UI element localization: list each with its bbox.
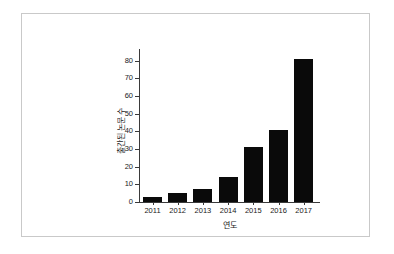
figure-root: 01020304050607080 2011201220132014201520… bbox=[0, 0, 394, 254]
y-axis-tick-mark bbox=[135, 114, 139, 115]
x-axis-tick-mark bbox=[279, 202, 280, 205]
bar bbox=[193, 189, 212, 202]
figure-frame-border: 01020304050607080 2011201220132014201520… bbox=[21, 13, 370, 237]
y-axis-tick-mark bbox=[135, 202, 139, 203]
bar bbox=[244, 147, 263, 202]
x-axis-tick-mark bbox=[203, 202, 204, 205]
y-axis-tick-label: 0 bbox=[129, 198, 133, 206]
x-axis-tick-mark bbox=[304, 202, 305, 205]
y-axis-tick-label: 60 bbox=[125, 92, 133, 100]
y-axis-tick-mark bbox=[135, 149, 139, 150]
y-axis-tick-label: 20 bbox=[125, 163, 133, 171]
y-axis-tick-label: 80 bbox=[125, 57, 133, 65]
x-axis-tick-mark bbox=[178, 202, 179, 205]
y-axis-tick-mark bbox=[135, 167, 139, 168]
x-axis-tick-mark bbox=[153, 202, 154, 205]
bar bbox=[168, 193, 187, 202]
y-axis-title: 출간된 논문 수 bbox=[118, 108, 126, 154]
x-axis-line bbox=[139, 202, 320, 203]
plot-area: 01020304050607080 2011201220132014201520… bbox=[139, 52, 319, 202]
y-axis-tick-mark bbox=[135, 61, 139, 62]
y-axis-tick-mark bbox=[135, 131, 139, 132]
bar-series bbox=[140, 52, 320, 202]
y-axis-tick-label: 10 bbox=[125, 181, 133, 189]
y-axis-tick-mark bbox=[135, 78, 139, 79]
x-axis-tick-mark bbox=[253, 202, 254, 205]
x-axis-title: 연도 bbox=[139, 222, 320, 230]
bar bbox=[294, 59, 313, 202]
y-axis-tick-mark bbox=[135, 184, 139, 185]
y-axis-tick-mark bbox=[135, 96, 139, 97]
x-axis-tick-mark bbox=[228, 202, 229, 205]
x-axis-tick-label: 2017 bbox=[284, 207, 324, 215]
y-axis-tick-label: 70 bbox=[125, 75, 133, 83]
bar bbox=[269, 130, 288, 202]
bar bbox=[219, 177, 238, 202]
